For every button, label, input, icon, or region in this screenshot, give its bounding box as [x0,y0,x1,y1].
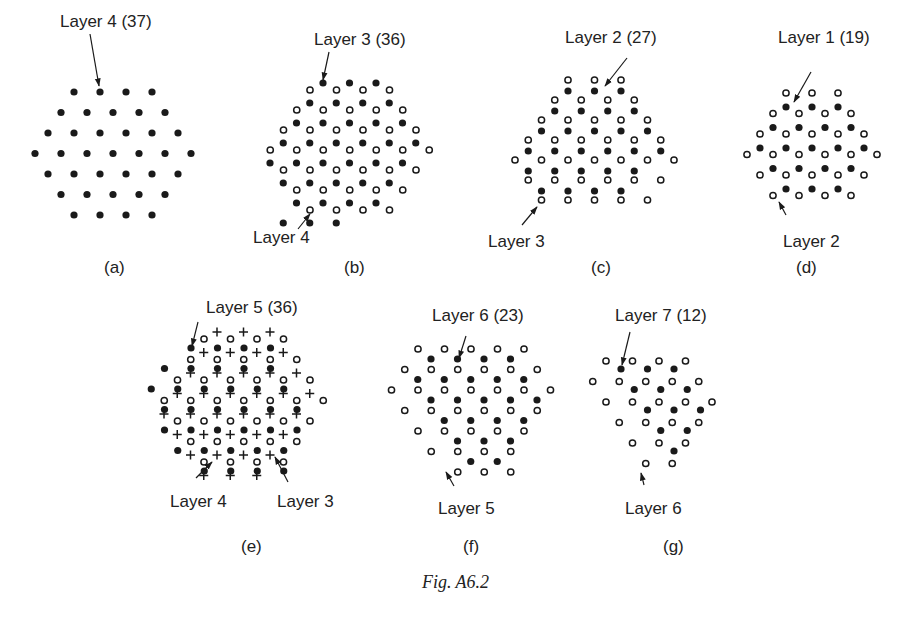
filled-atom-marker [214,426,221,433]
open-atom-marker [227,459,233,465]
open-atom-marker [565,197,571,203]
open-atom-marker [415,346,421,352]
filled-atom-marker [467,417,474,424]
filled-atom-marker [795,165,802,172]
filled-atom-marker [96,129,103,136]
filled-atom-marker [333,179,340,186]
filled-atom-marker [821,165,828,172]
open-atom-marker [307,418,313,424]
filled-atom-marker [551,147,558,154]
filled-atom-marker [834,144,841,151]
filled-atom-marker [494,417,501,424]
layer-annotation: Layer 6 (23) [432,306,524,326]
open-atom-marker [796,110,802,116]
filled-atom-marker [670,406,677,413]
open-atom-marker [757,131,763,137]
plus-atom-marker [173,430,182,439]
filled-atom-marker [122,129,129,136]
plus-atom-marker [213,328,222,337]
filled-atom-marker [96,170,103,177]
filled-atom-marker [109,191,116,198]
filled-atom-marker [333,99,340,106]
open-atom-marker [214,397,220,403]
open-atom-marker [629,358,635,364]
filled-atom-marker [860,144,867,151]
filled-atom-marker [538,187,545,194]
open-atom-marker [578,137,584,143]
filled-atom-marker [372,199,379,206]
filled-atom-marker [684,427,691,434]
filled-atom-marker [227,447,234,454]
filled-atom-marker [782,185,789,192]
open-atom-marker [590,378,596,384]
filled-atom-marker [187,344,194,351]
filled-atom-marker [427,355,434,362]
plus-atom-marker [226,430,235,439]
filled-atom-marker [631,107,638,114]
open-atom-marker [658,177,664,183]
open-atom-marker [644,197,650,203]
layer-annotation: Layer 5 (36) [206,298,298,318]
plus-atom-marker [252,348,261,357]
filled-atom-marker [267,344,274,351]
filled-atom-marker [293,426,300,433]
filled-atom-marker [591,87,598,94]
open-atom-marker [783,131,789,137]
panel-a [31,34,194,219]
open-atom-marker [809,172,815,178]
open-atom-marker [669,419,675,425]
open-atom-marker [521,387,527,393]
filled-atom-marker [644,127,651,134]
open-atom-marker [848,151,854,157]
open-atom-marker [796,151,802,157]
filled-atom-marker [412,139,419,146]
filled-atom-marker [83,191,90,198]
filled-atom-marker [346,159,353,166]
filled-atom-marker [109,109,116,116]
open-atom-marker [188,397,194,403]
filled-atom-marker [414,376,421,383]
filled-atom-marker [359,99,366,106]
open-atom-marker [552,97,558,103]
open-atom-marker [267,397,273,403]
filled-atom-marker [520,417,527,424]
open-atom-marker [696,419,702,425]
filled-atom-marker [306,139,313,146]
filled-atom-marker [319,199,326,206]
filled-atom-marker [821,124,828,131]
plus-atom-marker [239,451,248,460]
layer-annotation: Layer 6 [625,499,682,519]
filled-atom-marker [507,355,514,362]
open-atom-marker [578,97,584,103]
plus-atom-marker [252,430,261,439]
filled-atom-marker [293,159,300,166]
open-atom-marker [468,346,474,352]
open-atom-marker [783,90,789,96]
open-atom-marker [629,399,635,405]
filled-atom-marker [187,426,194,433]
open-atom-marker [373,107,379,113]
open-atom-marker [360,87,366,93]
open-atom-marker [538,157,544,163]
open-atom-marker [591,197,597,203]
layer-layer-4-filled-markers [31,88,194,218]
open-atom-marker [629,440,635,446]
filled-atom-marker [174,170,181,177]
layer-annotation: Layer 2 [783,232,840,252]
open-atom-marker [835,131,841,137]
filled-atom-marker [808,185,815,192]
open-atom-marker [174,377,180,383]
open-atom-marker [294,107,300,113]
filled-atom-marker [520,376,527,383]
filled-atom-marker [135,150,142,157]
open-atom-marker [508,448,514,454]
panel-b [266,52,432,229]
filled-atom-marker [83,109,90,116]
filled-atom-marker [214,344,221,351]
open-atom-marker [669,378,675,384]
filled-atom-marker [847,124,854,131]
filled-atom-marker [280,139,287,146]
filled-atom-marker [319,119,326,126]
filled-atom-marker [280,447,287,454]
filled-atom-marker [187,150,194,157]
